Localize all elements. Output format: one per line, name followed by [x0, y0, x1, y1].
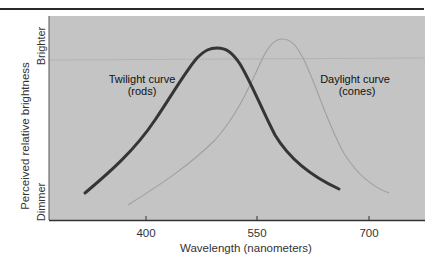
twilight-label-line2: (rods): [128, 85, 157, 97]
daylight-label-line1: Daylight curve: [320, 73, 390, 85]
x-tick-label-700: 700: [359, 227, 378, 239]
twilight-label-line1: Twilight curve: [109, 73, 176, 85]
y-axis-title: Perceived relative brightness: [19, 62, 31, 210]
plot-area: [49, 16, 425, 220]
chart-svg: Twilight curve (rods) Daylight curve (co…: [0, 0, 444, 267]
y-label-dimmer: Dimmer: [35, 182, 47, 221]
x-axis-title: Wavelength (nanometers): [180, 242, 312, 254]
daylight-label-line2: (cones): [339, 85, 376, 97]
y-label-brighter: Brighter: [35, 26, 47, 65]
x-tick-label-400: 400: [136, 227, 155, 239]
x-tick-label-550: 550: [247, 227, 266, 239]
